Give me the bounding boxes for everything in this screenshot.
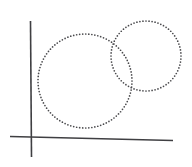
- large-circle-dot: [129, 65, 131, 67]
- large-circle-dot: [111, 119, 113, 121]
- small-circle-dot: [125, 84, 127, 86]
- large-circle-dot: [37, 85, 39, 87]
- large-circle-dot: [108, 40, 110, 42]
- large-circle-dot: [73, 35, 75, 37]
- large-circle-dot: [118, 113, 120, 115]
- small-circle-dot: [136, 21, 138, 23]
- small-circle-dot: [160, 23, 162, 25]
- large-circle-dot: [52, 46, 54, 48]
- small-circle-dot: [115, 73, 117, 75]
- large-circle-dot: [105, 38, 107, 40]
- large-circle-dot: [39, 94, 41, 96]
- large-circle-dot: [128, 62, 130, 64]
- large-circle-dot: [46, 107, 48, 109]
- small-circle-dot: [179, 46, 181, 48]
- large-circle-dot: [120, 111, 122, 113]
- small-circle-dot: [178, 43, 180, 45]
- small-circle-dot: [111, 46, 113, 48]
- small-circle-dot: [112, 67, 114, 69]
- small-circle-dot: [163, 85, 165, 87]
- large-circle-dot: [41, 61, 43, 63]
- small-circle-dot: [148, 20, 150, 22]
- small-circle-dot: [118, 33, 120, 35]
- large-circle-dot: [88, 127, 90, 129]
- small-circle-dot: [177, 40, 179, 42]
- small-circle-dot: [151, 21, 153, 23]
- large-circle-dot: [43, 58, 45, 60]
- large-circle-dot: [37, 82, 39, 84]
- small-circle-dot: [165, 26, 167, 28]
- diagram-canvas: [0, 0, 192, 167]
- small-circle-dot: [154, 89, 156, 91]
- small-circle-dot: [128, 25, 130, 27]
- small-circle-dot: [142, 90, 144, 92]
- small-circle-dot: [116, 35, 118, 37]
- large-circle-dot: [50, 48, 52, 50]
- large-circle-dot: [85, 127, 87, 129]
- large-circle-dot: [103, 123, 105, 125]
- large-circle-dot: [54, 44, 56, 46]
- small-circle-dot: [120, 30, 122, 32]
- large-circle-dot: [130, 71, 132, 73]
- small-circle-dot: [160, 87, 162, 89]
- small-circle-dot: [113, 70, 115, 72]
- large-circle-dot: [59, 41, 61, 43]
- large-circle-dot: [67, 36, 69, 38]
- large-circle-dot: [40, 97, 42, 99]
- small-circle-dot: [148, 90, 150, 92]
- small-circle-dot: [177, 70, 179, 72]
- large-circle-dot: [108, 121, 110, 123]
- large-circle-dot: [76, 126, 78, 128]
- large-circle-dot: [131, 77, 133, 79]
- small-circle-dot: [180, 58, 182, 60]
- small-circle-dot: [172, 78, 174, 80]
- large-circle-dot: [48, 110, 50, 112]
- small-circle-dot: [111, 64, 113, 66]
- x-axis-line: [10, 137, 173, 141]
- large-circle-dot: [62, 39, 64, 41]
- small-circle-dot: [110, 55, 112, 57]
- small-circle-dot: [172, 33, 174, 35]
- small-circle-dot: [133, 22, 135, 24]
- large-circle-dot: [82, 127, 84, 129]
- large-circle-dot: [91, 127, 93, 129]
- large-circle-dot: [111, 41, 113, 43]
- small-circle-dot: [133, 88, 135, 90]
- large-circle-dot: [85, 33, 87, 35]
- large-circle-dot: [103, 37, 105, 39]
- large-circle-dot: [126, 101, 128, 103]
- small-circle-dot: [128, 85, 130, 87]
- small-circle-dot: [111, 61, 113, 63]
- small-circle-dot: [139, 90, 141, 92]
- large-circle-dot: [97, 35, 99, 37]
- large-circle-dot: [56, 118, 58, 120]
- large-circle-dot: [123, 106, 125, 108]
- large-circle-dot: [115, 115, 117, 117]
- small-circle-dot: [118, 78, 120, 80]
- large-circle-dot: [41, 99, 43, 101]
- large-circle-dot: [94, 34, 96, 36]
- large-circle-dot: [38, 88, 40, 90]
- small-circle-dot: [123, 82, 125, 84]
- large-circle-dot: [67, 124, 69, 126]
- large-circle-dot: [54, 116, 56, 118]
- small-circle-dot: [130, 87, 132, 89]
- small-circle-dot: [175, 73, 177, 75]
- small-circle-dot: [130, 23, 132, 25]
- large-circle-dot: [94, 126, 96, 128]
- large-circle-dot: [56, 42, 58, 44]
- small-circle-dot: [170, 80, 172, 82]
- large-circle-dot: [129, 95, 131, 97]
- large-circle-dot: [76, 34, 78, 36]
- small-circle-dot: [179, 64, 181, 66]
- small-circle-dot: [163, 25, 165, 27]
- large-circle-dot: [120, 49, 122, 51]
- large-circle-dot: [38, 70, 40, 72]
- large-circle-dot: [64, 38, 66, 40]
- small-circle-dot: [178, 67, 180, 69]
- small-circle-dot: [174, 75, 176, 77]
- large-circle-dot: [43, 102, 45, 104]
- large-circle-dot: [122, 52, 124, 54]
- large-circle-dot: [38, 91, 40, 93]
- large-circle-dot: [44, 56, 46, 58]
